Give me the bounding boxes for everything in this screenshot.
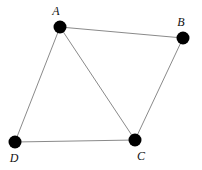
edges-group xyxy=(15,27,183,142)
edge-d-a xyxy=(15,27,60,142)
edge-a-b xyxy=(60,27,183,38)
node-c xyxy=(129,134,142,147)
node-label-a: A xyxy=(51,4,60,18)
node-label-c: C xyxy=(137,149,146,163)
edge-b-c xyxy=(135,38,183,140)
node-a xyxy=(54,21,67,34)
node-b xyxy=(177,32,190,45)
node-label-b: B xyxy=(177,15,185,29)
node-label-d: D xyxy=(9,151,19,165)
edge-a-c xyxy=(60,27,135,140)
graph-diagram: ABCD xyxy=(0,0,202,170)
nodes-group xyxy=(9,21,190,149)
node-d xyxy=(9,136,22,149)
edge-c-d xyxy=(15,140,135,142)
